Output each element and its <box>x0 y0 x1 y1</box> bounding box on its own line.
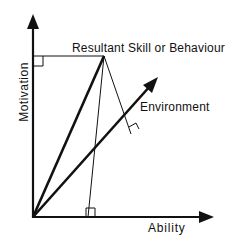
right-angle-marker-x <box>86 208 95 217</box>
right-angle-marker-env <box>129 123 139 129</box>
environment-vector <box>33 77 158 217</box>
environment-label: Environment <box>140 101 210 113</box>
x-axis <box>32 211 214 223</box>
x-axis-arrow-icon <box>199 211 214 223</box>
x-axis-label: Ability <box>148 222 186 234</box>
y-axis-label: Motivation <box>18 62 30 122</box>
right-angle-marker-y <box>33 56 43 66</box>
diagram-canvas <box>0 0 250 247</box>
resultant-label: Resultant Skill or Behaviour <box>72 42 225 54</box>
ability-projection-line <box>88 56 104 217</box>
y-axis-arrow-icon <box>27 14 39 29</box>
resultant-vector <box>33 56 104 217</box>
